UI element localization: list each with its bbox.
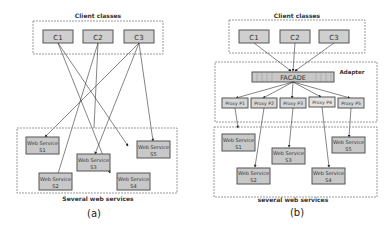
svg-text:Proxy P3: Proxy P3 [283, 101, 303, 106]
svg-text:C3: C3 [329, 34, 338, 42]
svg-text:FACADE: FACADE [280, 74, 306, 82]
svg-text:S3: S3 [285, 157, 291, 163]
service-box-s2: Web Service S2 [237, 168, 270, 184]
client-box-c1: C1 [239, 30, 269, 43]
service-box-s1: Web Service S1 [222, 134, 255, 151]
svg-text:C3: C3 [134, 34, 143, 42]
client-box-c2: C2 [83, 30, 113, 43]
diagram-b: Client classes C1 C2 C3 Adapter FACADE [214, 12, 377, 218]
service-box-s4: Web Service S4 [312, 168, 345, 184]
service-box-s5: Web Service S5 [332, 137, 365, 153]
client-to-facade-lines [254, 43, 334, 71]
caption-b: (b) [290, 207, 304, 218]
svg-text:Proxy P5: Proxy P5 [341, 101, 361, 106]
proxy-box-p3: Proxy P3 [280, 98, 306, 108]
svg-text:S2: S2 [52, 183, 58, 189]
svg-text:C2: C2 [93, 34, 102, 42]
svg-text:Proxy P1: Proxy P1 [225, 101, 245, 106]
caption-a: (a) [87, 208, 101, 219]
proxy-box-p4: Proxy P4 [309, 97, 335, 107]
service-box-s5: Web Service S5 [137, 141, 170, 158]
client-box-c1: C1 [43, 30, 73, 43]
service-box-s3: Web Service S3 [77, 154, 110, 171]
proxy-box-p5: Proxy P5 [338, 98, 364, 108]
service-box-s3: Web Service S3 [272, 148, 305, 164]
proxy-box-p1: Proxy P1 [222, 98, 248, 108]
svg-text:C2: C2 [290, 34, 299, 42]
svg-text:Proxy P2: Proxy P2 [254, 101, 274, 106]
web-services-label: Several web services [62, 195, 134, 202]
svg-text:Web Service: Web Service [238, 170, 269, 176]
svg-text:Web Service: Web Service [313, 170, 344, 176]
svg-text:S4: S4 [130, 183, 136, 189]
svg-text:Web Service: Web Service [138, 144, 169, 150]
adapter-label: Adapter [340, 69, 365, 76]
client-box-c2: C2 [280, 30, 310, 43]
proxy-box-p2: Proxy P2 [251, 98, 277, 108]
svg-text:S1: S1 [39, 147, 45, 153]
svg-text:Web Service: Web Service [40, 176, 71, 182]
svg-text:Web Service: Web Service [333, 139, 364, 145]
client-classes-label: Client classes [274, 12, 321, 19]
diagram-a: Client classes C1 C2 C3 Several web serv… [17, 12, 177, 219]
service-box-s1: Web Service S1 [26, 137, 59, 154]
svg-text:Web Service: Web Service [27, 140, 58, 146]
svg-text:Web Service: Web Service [273, 150, 304, 156]
client-classes-label: Client classes [75, 12, 122, 19]
svg-text:S4: S4 [325, 177, 331, 183]
svg-text:Proxy P4: Proxy P4 [312, 100, 332, 105]
svg-text:Web Service: Web Service [223, 137, 254, 143]
svg-text:C1: C1 [249, 34, 258, 42]
client-box-c3: C3 [124, 30, 154, 43]
svg-text:S3: S3 [90, 164, 96, 170]
svg-text:Web Service: Web Service [78, 157, 109, 163]
svg-text:C1: C1 [53, 34, 62, 42]
svg-text:S1: S1 [235, 144, 241, 150]
svg-text:S2: S2 [250, 177, 256, 183]
facade-box: FACADE [252, 72, 334, 82]
facade-to-proxy-lines [236, 82, 350, 98]
web-services-label: several web services [258, 196, 329, 203]
figure: Client classes C1 C2 C3 Several web serv… [0, 0, 385, 233]
svg-text:S5: S5 [150, 151, 156, 157]
svg-text:S5: S5 [345, 146, 351, 152]
svg-text:Web Service: Web Service [118, 176, 149, 182]
client-box-c3: C3 [319, 30, 349, 43]
service-box-s4: Web Service S4 [117, 173, 150, 190]
service-box-s2: Web Service S2 [39, 173, 72, 190]
